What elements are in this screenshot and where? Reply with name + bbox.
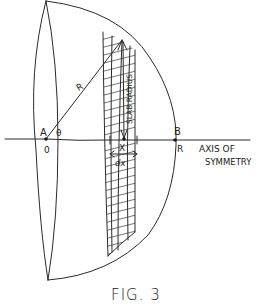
point-x-dot [122,137,126,141]
label-origin: 0 [44,145,50,155]
label-theta: θ [56,128,62,138]
label-end-r: R [177,144,183,154]
hemisphere-diagram: A 0 θ R SLAB RADIUS X dx B R AXIS OF SYM… [0,0,259,308]
label-slab-radius: SLAB RADIUS [125,74,134,124]
label-a: A [40,127,47,138]
label-b: B [174,126,181,137]
point-b-dot [173,138,177,142]
label-axis-line1: AXIS OF [199,144,235,154]
label-dx: dx [115,158,126,168]
label-axis-line2: SYMMETRY [205,157,252,167]
label-x: X [119,143,125,153]
figure-caption: FIG. 3 [111,286,161,304]
